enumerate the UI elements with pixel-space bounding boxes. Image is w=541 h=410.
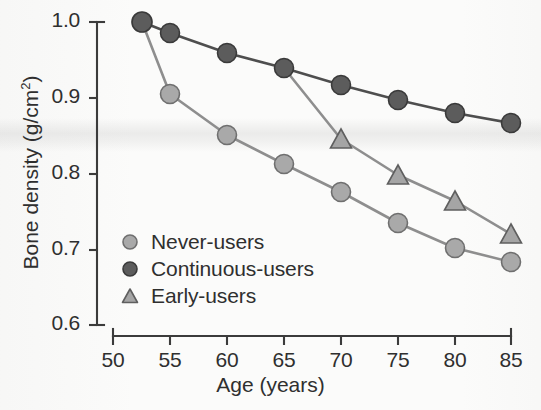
x-tick-label-75: 75 — [373, 348, 423, 372]
data-point-continuous-users — [132, 12, 152, 32]
legend-item-never-users: Never-users — [118, 228, 314, 255]
y-axis-title-tail: ) — [19, 76, 42, 83]
legend-item-early-users: Early-users — [118, 282, 314, 309]
data-point-never-users — [218, 126, 237, 145]
legend-circle-icon-never-users — [118, 231, 142, 253]
data-point-continuous-users — [446, 104, 465, 123]
x-axis-title: Age (years) — [0, 373, 541, 397]
data-point-never-users — [332, 183, 351, 202]
data-point-never-users — [161, 85, 180, 104]
y-axis-title-base: Bone density (g/cm — [19, 90, 42, 270]
y-tick-marks — [89, 22, 97, 325]
legend-item-continuous-users: Continuous-users — [118, 255, 314, 282]
series-line-never-users — [142, 22, 511, 262]
data-point-early-users — [501, 224, 522, 243]
series-markers-early-users — [331, 129, 522, 243]
bone-density-line-chart: 1.0 0.9 0.8 0.7 0.6 50 55 60 65 70 75 80… — [0, 0, 541, 410]
data-point-early-users — [388, 165, 409, 184]
legend-label-continuous-users: Continuous-users — [151, 257, 314, 281]
data-point-early-users — [445, 191, 466, 210]
x-tick-label-60: 60 — [202, 348, 252, 372]
y-axis-title-exponent: 2 — [18, 83, 33, 90]
legend-circle-icon-continuous-users — [118, 258, 142, 280]
series-markers-continuous-users — [132, 12, 521, 133]
data-point-never-users — [446, 239, 465, 258]
data-point-never-users — [502, 253, 521, 272]
x-tick-label-65: 65 — [259, 348, 309, 372]
data-point-continuous-users — [332, 76, 351, 95]
data-point-continuous-users — [161, 24, 180, 43]
x-tick-label-80: 80 — [430, 348, 480, 372]
x-tick-marks — [113, 336, 511, 345]
data-point-never-users — [275, 155, 294, 174]
x-tick-label-70: 70 — [316, 348, 366, 372]
legend-label-never-users: Never-users — [151, 230, 264, 254]
data-point-continuous-users — [218, 44, 237, 63]
y-axis-title: Bone density (g/cm2) — [18, 13, 43, 333]
x-tick-label-50: 50 — [88, 348, 138, 372]
x-tick-label-55: 55 — [145, 348, 195, 372]
legend-triangle-icon-early-users — [118, 285, 142, 307]
x-tick-label-85: 85 — [486, 348, 536, 372]
data-point-continuous-users — [389, 91, 408, 110]
data-point-continuous-users — [502, 114, 521, 133]
chart-legend: Never-users Continuous-users Early-users — [118, 228, 314, 309]
legend-label-early-users: Early-users — [151, 284, 256, 308]
data-point-continuous-users — [275, 59, 294, 78]
data-point-never-users — [389, 214, 408, 233]
